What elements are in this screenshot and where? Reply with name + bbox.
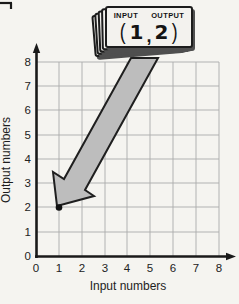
y-tick: 7 bbox=[25, 80, 31, 92]
y-tick: 4 bbox=[25, 153, 32, 165]
y-axis-label: Output numbers bbox=[0, 117, 13, 203]
output-value: 2 bbox=[155, 21, 169, 43]
x-tick: 4 bbox=[124, 262, 131, 274]
paren-close: ) bbox=[172, 20, 178, 44]
card-header-input: INPUT bbox=[114, 11, 139, 20]
pointer-arrow bbox=[53, 58, 158, 206]
x-tick: 0 bbox=[33, 262, 39, 274]
card-stack: INPUT OUTPUT ( 1 , 2 ) bbox=[0, 0, 239, 60]
x-tick-labels: 0 1 2 3 4 5 6 7 8 bbox=[33, 262, 222, 274]
x-tick: 2 bbox=[79, 262, 85, 274]
card-header-output: OUTPUT bbox=[151, 11, 184, 20]
paren-open: ( bbox=[120, 20, 126, 44]
input-output-card: INPUT OUTPUT ( 1 , 2 ) bbox=[105, 6, 193, 48]
x-tick: 6 bbox=[170, 262, 176, 274]
pair-comma: , bbox=[146, 28, 151, 44]
y-tick: 6 bbox=[25, 104, 31, 116]
y-tick: 0 bbox=[25, 250, 31, 262]
x-tick: 3 bbox=[102, 262, 108, 274]
y-tick: 2 bbox=[25, 201, 31, 213]
y-axis bbox=[33, 43, 40, 258]
x-axis bbox=[35, 253, 236, 260]
textbook-figure: 0 1 2 3 4 5 6 7 8 0 1 2 3 4 5 6 7 8 Inpu… bbox=[0, 0, 239, 304]
y-tick: 3 bbox=[25, 177, 31, 189]
x-tick: 8 bbox=[216, 262, 222, 274]
x-tick: 5 bbox=[147, 262, 153, 274]
x-tick: 7 bbox=[193, 262, 199, 274]
y-tick: 5 bbox=[25, 129, 31, 141]
card-ordered-pair: ( 1 , 2 ) bbox=[107, 20, 191, 44]
x-axis-label: Input numbers bbox=[90, 279, 167, 293]
x-tick: 1 bbox=[56, 262, 62, 274]
y-tick-labels: 0 1 2 3 4 5 6 7 8 bbox=[25, 56, 32, 262]
x-axis-arrowhead bbox=[226, 253, 236, 260]
data-point bbox=[56, 204, 63, 211]
input-value: 1 bbox=[130, 21, 144, 43]
y-tick: 1 bbox=[25, 226, 31, 238]
